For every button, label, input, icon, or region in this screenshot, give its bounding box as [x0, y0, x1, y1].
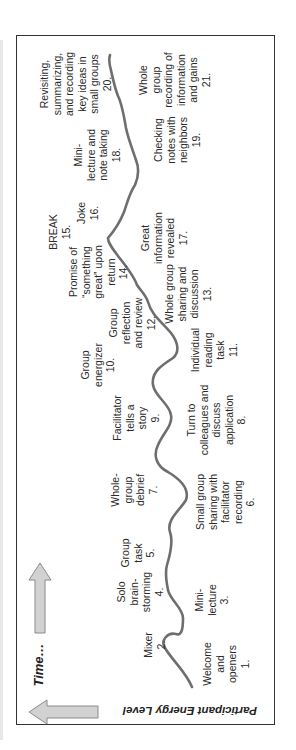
- energy-arrow-left-icon: [29, 700, 98, 724]
- activity-13: Whole group sharing and discussion 13.: [163, 264, 213, 324]
- activity-1: Welcome and openers 1.: [201, 642, 251, 686]
- energy-axis-label: Participant Energy Level: [123, 705, 257, 717]
- activity-3: Mini- lecture 3.: [193, 584, 231, 616]
- time-arrow-up-icon: [29, 563, 51, 633]
- activity-9: Facilitator tells a story 9.: [111, 395, 161, 441]
- activity-15-break: BREAK 15.: [47, 214, 72, 250]
- activity-16: Joke 16.: [75, 202, 100, 224]
- activity-4: Solo brain- storming 4.: [115, 572, 165, 612]
- activity-7: Whole- group debrief 7.: [109, 473, 159, 506]
- activity-8: Turn to colleagues and discuss applicati…: [185, 385, 248, 456]
- activity-20: Revisiting, summarizing, and recording k…: [38, 52, 114, 116]
- activity-5: Group task 5.: [119, 538, 157, 567]
- time-axis-label: Time…: [31, 643, 46, 686]
- activity-17: Great information revealed 17.: [139, 212, 189, 264]
- activity-6: Small group sharing with facilitator rec…: [194, 474, 257, 530]
- activity-19: Checking notes with neighbors 19.: [152, 116, 202, 163]
- activity-12: Group reflection and review 12.: [107, 298, 157, 349]
- activity-2: Mixer 2.: [142, 632, 167, 658]
- activity-14: Promise of “something great” upon return…: [67, 245, 130, 299]
- activity-11: Individual reading task 11.: [189, 328, 239, 372]
- activity-18: Mini- lecture and note taking 18.: [72, 129, 122, 181]
- activity-21: Whole group recording of information and…: [137, 52, 213, 107]
- activity-10: Group energizer 10.: [79, 343, 117, 387]
